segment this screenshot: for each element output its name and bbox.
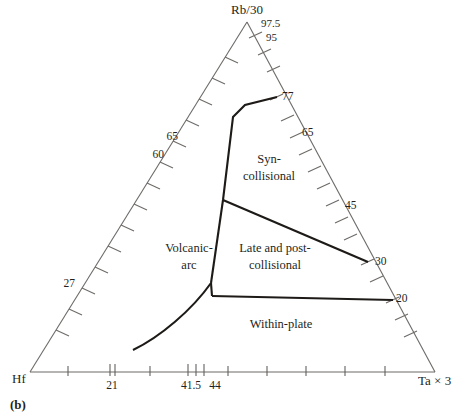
right-tick [344, 234, 357, 240]
left-tick [69, 309, 82, 315]
field-label-late-and-post-collisional: Late and post- collisional [239, 241, 311, 272]
ternary-diagram-figure: Rb/30 Hf Ta × 3 97.5 95 77 65 45 30 20 6… [0, 0, 468, 419]
bottom-axis-ticks [68, 364, 385, 376]
field-label-within-plate-line1: Within-plate [250, 317, 313, 331]
tick-label-left-60: 60 [153, 148, 165, 160]
field-label-within-plate: Within-plate [250, 317, 313, 331]
left-tick [108, 246, 121, 252]
right-tick [308, 166, 321, 172]
right-tick [317, 183, 330, 189]
syn-collisional-upper-boundary [223, 97, 277, 200]
left-tick [121, 225, 134, 231]
volcanic-arc-curve [133, 283, 211, 350]
late-within-divider [212, 296, 393, 300]
tick-label-right-95: 95 [266, 31, 278, 43]
right-tick [281, 115, 294, 121]
left-tick [199, 99, 212, 105]
field-label-syn-collisional-line1: Syn- [257, 152, 281, 166]
right-tick [326, 200, 339, 206]
right-tick [370, 276, 383, 282]
right-tick [335, 217, 348, 223]
left-tick [82, 288, 95, 294]
left-tick [160, 162, 173, 168]
left-tick [134, 204, 147, 210]
tick-label-right-45: 45 [345, 199, 357, 211]
corner-label-hf: Hf [12, 371, 26, 386]
triangle-axes [30, 22, 435, 372]
field-label-volcanic-arc: Volcanic- arc [165, 241, 213, 272]
left-axis-ticks [56, 57, 238, 336]
field-label-volcanic-arc-line1: Volcanic- [165, 241, 213, 255]
left-tick [95, 267, 108, 273]
corner-label-ta: Ta × 3 [418, 373, 451, 388]
left-tick [186, 120, 199, 126]
apex-label-rb: Rb/30 [231, 2, 263, 17]
field-label-late-collisional-line1: Late and post- [239, 241, 311, 255]
left-tick [225, 57, 238, 63]
left-tick [212, 78, 225, 84]
ternary-diagram-svg: Rb/30 Hf Ta × 3 97.5 95 77 65 45 30 20 6… [0, 0, 468, 419]
field-label-late-collisional-line2: collisional [249, 258, 302, 272]
left-tick [56, 330, 69, 336]
tick-label-bottom-44: 44 [209, 379, 221, 391]
field-label-volcanic-arc-line2: arc [181, 258, 197, 272]
tick-label-bottom-21: 21 [106, 379, 118, 391]
tick-label-right-20: 20 [396, 292, 408, 304]
tick-label-right-97-5: 97.5 [261, 17, 281, 29]
right-tick [299, 149, 312, 155]
field-label-syn-collisional: Syn- collisional [243, 152, 296, 183]
tick-label-right-30: 30 [375, 255, 387, 267]
left-tick [147, 183, 160, 189]
tick-label-bottom-41-5: 41.5 [181, 379, 201, 391]
panel-label: (b) [10, 397, 26, 412]
volcanic-arc-junction-step [211, 283, 212, 296]
tick-label-right-65: 65 [302, 126, 314, 138]
field-label-syn-collisional-line2: collisional [243, 169, 296, 183]
left-axis-line [30, 22, 247, 372]
tick-label-right-77: 77 [282, 90, 294, 102]
tick-label-left-27: 27 [64, 277, 76, 289]
tick-label-left-65: 65 [167, 130, 179, 142]
